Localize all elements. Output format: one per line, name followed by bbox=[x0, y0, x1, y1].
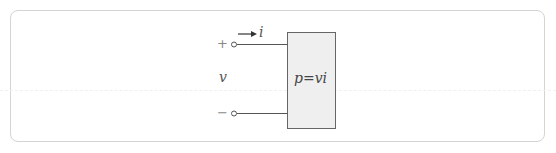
circuit-diagram bbox=[0, 0, 556, 153]
current-label: i bbox=[259, 24, 263, 40]
terminal-minus-label: − bbox=[217, 105, 228, 120]
terminal-minus-icon bbox=[232, 111, 237, 116]
terminal-plus-icon bbox=[232, 42, 237, 47]
voltage-label: v bbox=[219, 69, 227, 85]
terminal-plus-label: + bbox=[217, 36, 228, 51]
element-label: p=vi bbox=[294, 70, 327, 86]
current-arrowhead-icon bbox=[251, 31, 257, 37]
